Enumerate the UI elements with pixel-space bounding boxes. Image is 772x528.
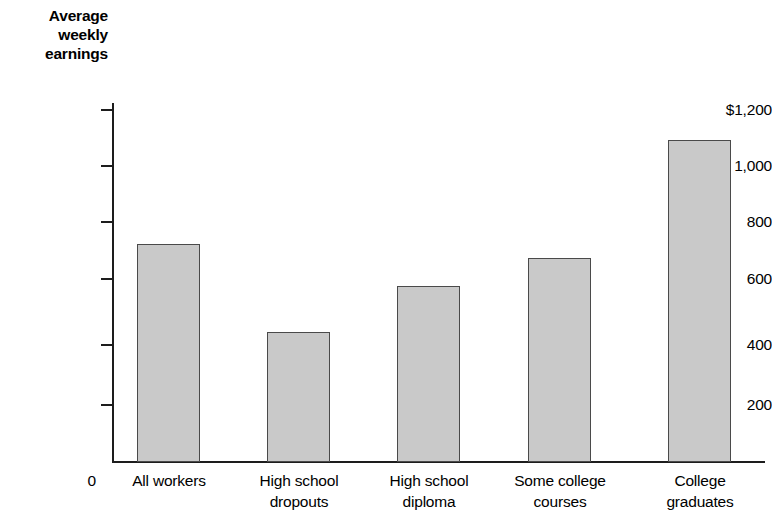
y-axis-title: Average weekly earnings [0, 6, 108, 63]
y-tick-mark-200 [101, 404, 113, 406]
y-axis-line [112, 103, 114, 463]
y-axis-title-line-2: weekly [0, 25, 108, 44]
y-axis-title-line-3: earnings [0, 44, 108, 63]
bar-high-school-diploma [397, 286, 460, 462]
bar-all-workers [137, 244, 200, 462]
x-tick-label-high-school-diploma-line-1: High school [368, 470, 490, 491]
x-tick-label-all-workers-line-1: All workers [108, 470, 230, 491]
x-tick-label-college-graduates-line-1: College [639, 470, 761, 491]
bar-high-school-dropouts [267, 332, 330, 462]
y-tick-mark-400 [101, 344, 113, 346]
y-tick-mark-600 [101, 278, 113, 280]
x-tick-label-high-school-dropouts: High school dropouts [238, 470, 360, 512]
x-tick-label-high-school-dropouts-line-1: High school [238, 470, 360, 491]
x-tick-label-some-college-courses: Some college courses [499, 470, 621, 512]
y-axis-title-line-1: Average [0, 6, 108, 25]
bar-some-college-courses [528, 258, 591, 462]
y-tick-label-0: 0 [56, 472, 96, 489]
x-tick-label-high-school-diploma: High school diploma [368, 470, 490, 512]
x-tick-label-some-college-courses-line-1: Some college [499, 470, 621, 491]
bar-chart: Average weekly earnings $1,200 1,000 800… [0, 0, 772, 528]
bar-college-graduates [668, 140, 731, 462]
y-tick-mark-800 [101, 221, 113, 223]
x-tick-label-college-graduates-line-2: graduates [639, 491, 761, 512]
x-tick-label-high-school-dropouts-line-2: dropouts [238, 491, 360, 512]
y-tick-mark-1000 [101, 165, 113, 167]
x-tick-label-high-school-diploma-line-2: diploma [368, 491, 490, 512]
x-tick-label-some-college-courses-line-2: courses [499, 491, 621, 512]
x-tick-label-all-workers: All workers [108, 470, 230, 491]
x-tick-label-college-graduates: College graduates [639, 470, 761, 512]
y-tick-mark-1200 [101, 109, 113, 111]
y-tick-label-1200: $1,200 [676, 102, 772, 118]
